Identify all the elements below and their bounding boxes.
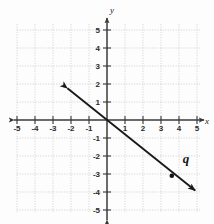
coordinate-plane: -5 -4 -3 -2 -1 1 2 3 4 5 5 4 3 2 1 -1 -2… [0,0,214,224]
y-tick-label: -4 [93,188,101,197]
x-tick-label: -3 [49,124,57,133]
y-tick-label: -2 [93,152,101,161]
y-tick-label: -1 [93,134,101,143]
y-tick-label: 1 [96,98,101,107]
x-tick-label: -4 [31,124,39,133]
y-tick-label: 5 [96,26,101,35]
y-tick-label: 2 [96,80,101,89]
x-tick-label: 5 [195,124,200,133]
x-tick-label: -1 [85,124,93,133]
y-tick-label: -5 [93,206,101,215]
x-tick-label: 1 [123,124,128,133]
x-axis-label: x [204,116,209,126]
data-point-marker [170,174,175,179]
graph-figure: · · · · · · · · · [0,0,214,224]
y-tick-label: -3 [93,170,101,179]
x-tick-label: -2 [67,124,75,133]
x-tick-label: 4 [177,124,182,133]
line-label-q: q [183,151,190,166]
x-tick-label: -5 [13,124,21,133]
y-tick-label: 4 [96,44,101,53]
y-axis-label: y [109,5,114,15]
y-tick-label: 3 [96,62,101,71]
x-tick-label: 2 [141,124,146,133]
x-tick-label: 3 [159,124,164,133]
